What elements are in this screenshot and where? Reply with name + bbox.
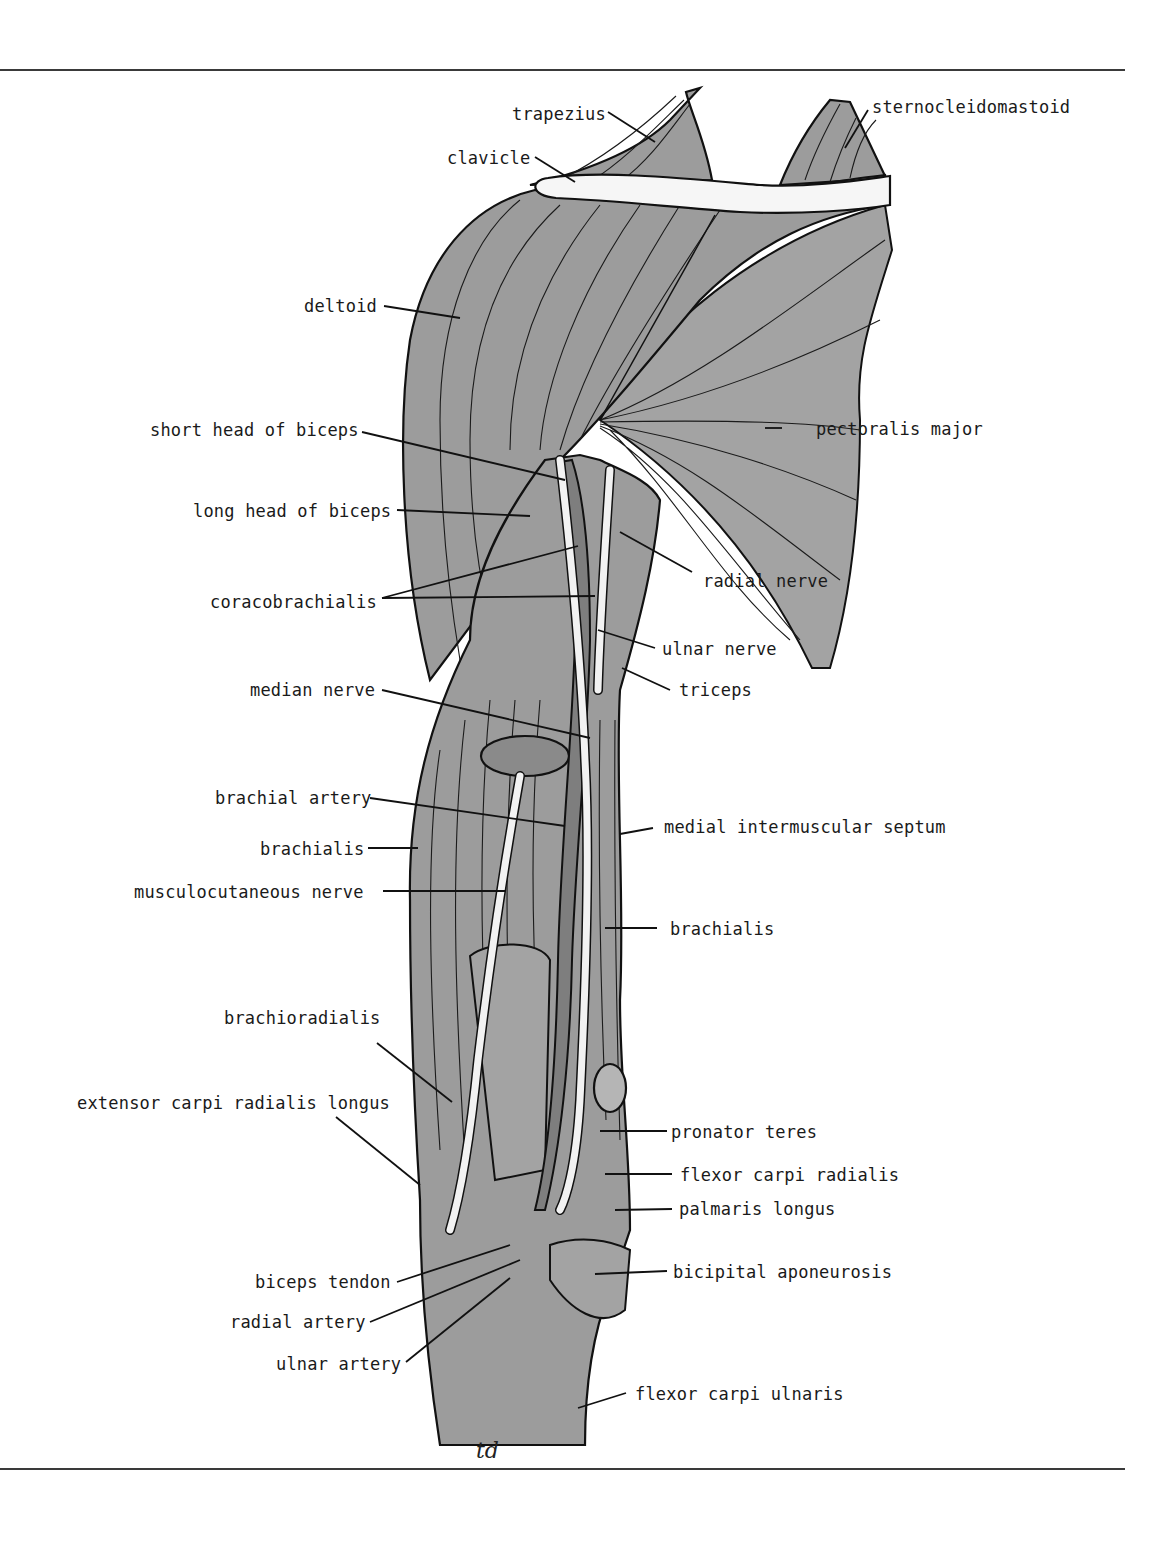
label-pectoralis-major: pectoralis major xyxy=(816,419,983,439)
label-flexor-carpi-ulnaris: flexor carpi ulnaris xyxy=(635,1384,844,1404)
arm-anatomy-illustration xyxy=(0,0,1154,1553)
label-musculocutaneous-nerve: musculocutaneous nerve xyxy=(134,882,364,902)
label-brachialis-right: brachialis xyxy=(670,919,774,939)
label-trapezius: trapezius xyxy=(512,104,606,124)
label-deltoid: deltoid xyxy=(304,296,377,316)
label-sternocleidomastoid: sternocleidomastoid xyxy=(872,97,1070,117)
label-ulnar-artery: ulnar artery xyxy=(276,1354,401,1374)
label-long-head-of-biceps: long head of biceps xyxy=(193,501,391,521)
label-palmaris-longus: palmaris longus xyxy=(679,1199,836,1219)
label-brachial-artery: brachial artery xyxy=(215,788,372,808)
label-medial-intermuscular-septum: medial intermuscular septum xyxy=(664,817,946,837)
label-median-nerve: median nerve xyxy=(250,680,375,700)
artist-signature: td xyxy=(476,1438,499,1463)
label-bicipital-aponeurosis: bicipital aponeurosis xyxy=(673,1262,892,1282)
label-radial-nerve: radial nerve xyxy=(703,571,828,591)
label-short-head-of-biceps: short head of biceps xyxy=(150,420,359,440)
label-triceps: triceps xyxy=(679,680,752,700)
label-pronator-teres: pronator teres xyxy=(671,1122,817,1142)
label-biceps-tendon: biceps tendon xyxy=(255,1272,391,1292)
sternocleidomastoid-muscle xyxy=(780,100,886,185)
label-radial-artery: radial artery xyxy=(230,1312,366,1332)
label-brachialis-left: brachialis xyxy=(260,839,364,859)
label-brachioradialis: brachioradialis xyxy=(224,1008,381,1028)
label-extensor-carpi-radialis-longus: extensor carpi radialis longus xyxy=(77,1093,390,1113)
label-ulnar-nerve: ulnar nerve xyxy=(662,639,777,659)
label-coracobrachialis: coracobrachialis xyxy=(210,592,377,612)
label-clavicle: clavicle xyxy=(447,148,530,168)
label-flexor-carpi-radialis: flexor carpi radialis xyxy=(680,1165,899,1185)
